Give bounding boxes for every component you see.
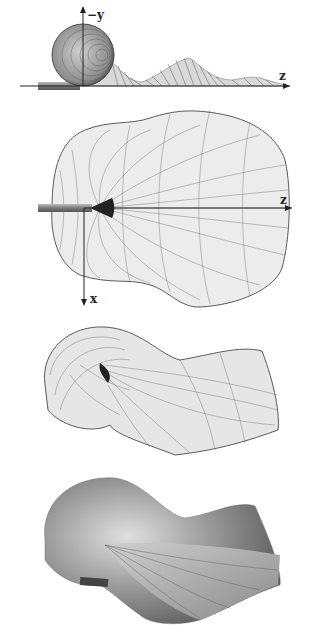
side-view-plot: −y z bbox=[0, 0, 311, 100]
wave-surface bbox=[84, 58, 288, 86]
perspective-wireframe-plot bbox=[0, 315, 311, 470]
z-axis-arrow-icon bbox=[283, 83, 290, 89]
top-view-plot: z x bbox=[0, 100, 311, 315]
x-axis-arrow-icon bbox=[81, 299, 87, 306]
neg-y-axis-arrow-icon bbox=[80, 6, 86, 13]
wireframe-outline bbox=[44, 327, 278, 455]
x-axis-label: x bbox=[90, 292, 98, 306]
neg-y-axis-label: −y bbox=[87, 8, 105, 22]
perspective-shaded-plot bbox=[0, 470, 311, 638]
perspective-shaded-panel bbox=[0, 470, 311, 638]
z-axis-label: z bbox=[280, 193, 287, 207]
perspective-wireframe-panel bbox=[0, 315, 311, 470]
side-view-panel: −y z bbox=[0, 0, 311, 100]
top-view-panel: z x bbox=[0, 100, 311, 315]
z-axis-label: z bbox=[279, 69, 286, 83]
